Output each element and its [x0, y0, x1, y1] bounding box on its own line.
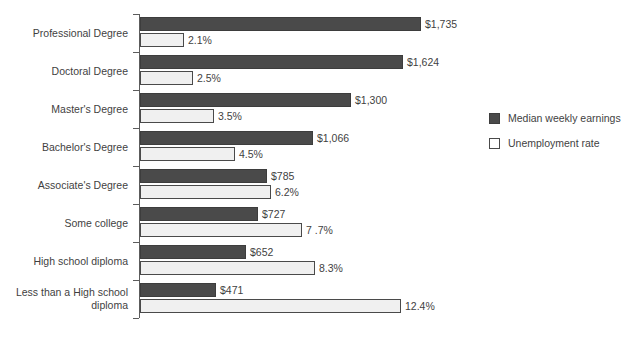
bar-unemployment-rate: [140, 147, 235, 161]
bar-median-weekly-earnings: [140, 131, 313, 145]
bar-unemployment-rate: [140, 109, 214, 123]
category-label: Bachelor's Degree: [0, 128, 128, 166]
bar-value-label-earnings: $471: [220, 284, 243, 296]
category-label: High school diploma: [0, 242, 128, 280]
bar-row-unemployment-rate: 4.5%: [140, 147, 263, 161]
bar-row-unemployment-rate: 8.3%: [140, 261, 343, 275]
bar-row-median-weekly-earnings: $727: [140, 207, 285, 221]
bar-group: Less than a High school diploma$47112.4%: [0, 280, 470, 318]
bar-median-weekly-earnings: [140, 283, 216, 297]
bar-row-median-weekly-earnings: $1,066: [140, 131, 349, 145]
bar-value-label-earnings: $727: [262, 208, 285, 220]
bar-value-label-unemployment: 2.5%: [197, 72, 221, 84]
bar-value-label-earnings: $1,066: [317, 132, 349, 144]
bar-row-unemployment-rate: 12.4%: [140, 299, 435, 313]
bar-median-weekly-earnings: [140, 93, 351, 107]
bar-row-unemployment-rate: 3.5%: [140, 109, 242, 123]
bar-value-label-unemployment: 2.1%: [188, 34, 212, 46]
bar-value-label-unemployment: 12.4%: [405, 300, 435, 312]
legend-item-median-weekly-earnings: Median weekly earnings: [489, 112, 624, 124]
category-label: Professional Degree: [0, 14, 128, 52]
legend-label-unemployment-rate: Unemployment rate: [508, 137, 600, 149]
category-label: Some college: [0, 204, 128, 242]
bar-row-median-weekly-earnings: $1,735: [140, 17, 457, 31]
category-label: Doctoral Degree: [0, 52, 128, 90]
category-label: Master's Degree: [0, 90, 128, 128]
bar-median-weekly-earnings: [140, 169, 267, 183]
bar-group: Professional Degree$1,7352.1%: [0, 14, 470, 52]
legend-swatch-filled-dark-square: [489, 113, 500, 124]
category-label: Associate's Degree: [0, 166, 128, 204]
bar-median-weekly-earnings: [140, 207, 258, 221]
bar-row-unemployment-rate: 2.5%: [140, 71, 221, 85]
bar-row-median-weekly-earnings: $471: [140, 283, 243, 297]
bar-row-unemployment-rate: 6.2%: [140, 185, 299, 199]
bar-value-label-unemployment: 4.5%: [239, 148, 263, 160]
bar-group: Associate's Degree$7856.2%: [0, 166, 470, 204]
bar-median-weekly-earnings: [140, 17, 421, 31]
bar-row-median-weekly-earnings: $1,624: [140, 55, 439, 69]
legend-label-median-weekly-earnings: Median weekly earnings: [508, 112, 621, 124]
bar-group: Doctoral Degree$1,6242.5%: [0, 52, 470, 90]
bar-value-label-unemployment: 6.2%: [275, 186, 299, 198]
bar-median-weekly-earnings: [140, 55, 403, 69]
bar-value-label-unemployment: 3.5%: [218, 110, 242, 122]
bar-median-weekly-earnings: [140, 245, 246, 259]
bar-value-label-unemployment: 7 .7%: [306, 224, 333, 236]
category-label: Less than a High school diploma: [0, 280, 128, 318]
bar-group: Master's Degree$1,3003.5%: [0, 90, 470, 128]
bar-value-label-unemployment: 8.3%: [319, 262, 343, 274]
bar-value-label-earnings: $1,300: [355, 94, 387, 106]
bar-unemployment-rate: [140, 185, 271, 199]
bar-value-label-earnings: $1,735: [425, 18, 457, 30]
legend-item-unemployment-rate: Unemployment rate: [489, 137, 624, 149]
bar-unemployment-rate: [140, 261, 315, 275]
bar-chart: Professional Degree$1,7352.1%Doctoral De…: [0, 0, 627, 340]
bar-group: Some college$7277 .7%: [0, 204, 470, 242]
axis-tick: [133, 318, 139, 319]
bar-value-label-earnings: $652: [250, 246, 273, 258]
bar-value-label-earnings: $785: [271, 170, 294, 182]
bar-row-median-weekly-earnings: $1,300: [140, 93, 387, 107]
bar-row-unemployment-rate: 2.1%: [140, 33, 212, 47]
bar-unemployment-rate: [140, 33, 184, 47]
bar-unemployment-rate: [140, 71, 193, 85]
bar-value-label-earnings: $1,624: [407, 56, 439, 68]
bar-row-unemployment-rate: 7 .7%: [140, 223, 333, 237]
chart-legend: Median weekly earnings Unemployment rate: [489, 112, 624, 162]
bar-row-median-weekly-earnings: $785: [140, 169, 294, 183]
bar-group: High school diploma$6528.3%: [0, 242, 470, 280]
legend-swatch-outlined-white-square: [489, 138, 500, 149]
bar-unemployment-rate: [140, 223, 302, 237]
bar-group: Bachelor's Degree$1,0664.5%: [0, 128, 470, 166]
bar-row-median-weekly-earnings: $652: [140, 245, 273, 259]
plot-area: Professional Degree$1,7352.1%Doctoral De…: [0, 0, 470, 340]
bar-unemployment-rate: [140, 299, 401, 313]
